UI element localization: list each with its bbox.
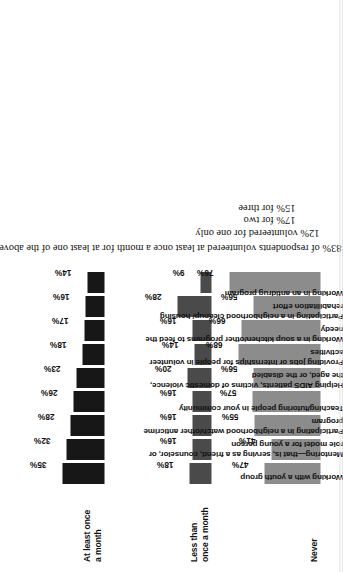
footnote-one-only: 12% volunteered for one only <box>195 228 341 239</box>
category-label: Providing jobs or internships for people… <box>138 348 343 367</box>
footnote-two: 17% for two <box>243 215 341 226</box>
bar-value-label: 23% <box>44 364 61 374</box>
group-header-never: Never <box>308 488 319 562</box>
rotated-figure-stage: At least once a month 35% 32% 28% <box>0 0 343 572</box>
category-label: Helping AIDS patients, victims of domest… <box>138 371 343 390</box>
footnote-summary: 83% of respondents volunteered at least … <box>0 243 341 254</box>
category-label: Participating in a neighborhood cleanup/… <box>138 302 343 321</box>
bar-group-at-least-once-a-month: At least once a month 35% 32% 28% <box>8 272 104 562</box>
bar-slot: 16% <box>8 296 104 317</box>
category-label: Participating in a neighborhood watch/ot… <box>138 417 343 436</box>
bar <box>73 391 104 412</box>
bar-value-label: 26% <box>40 388 57 398</box>
bars-at-least-once-a-month: 35% 32% 28% 26% <box>8 272 104 484</box>
page: At least once a month 35% 32% 28% <box>0 0 343 572</box>
bar-slot: 18% <box>8 344 104 365</box>
group-header-line-1: Never <box>308 488 319 562</box>
bar-value-label: 14% <box>55 268 72 278</box>
bar-value-label: 28% <box>38 412 55 422</box>
page-edge-line-secondary <box>339 0 340 572</box>
group-header-less-than-once-a-month: Less than once a month <box>188 488 209 562</box>
group-header-line-1: At least once <box>81 488 92 562</box>
bar-value-label: 47% <box>231 460 248 470</box>
footnote-three: 15% for three <box>238 203 341 214</box>
bar <box>84 320 104 341</box>
category-label: Teaching/tutoring people in your communi… <box>138 403 343 413</box>
group-header-at-least-once-a-month: At least once a month <box>81 488 102 562</box>
bar-value-label: 9% <box>172 268 184 278</box>
bar-slot: 23% <box>8 368 104 389</box>
category-label: Working with a youth group <box>138 472 343 482</box>
bar <box>66 439 104 460</box>
bar <box>87 272 104 293</box>
category-label: Working in a soup kitchen/other programs… <box>138 325 343 344</box>
bar-slot: 17% <box>8 320 104 341</box>
bar <box>82 344 104 365</box>
bar-value-label: 35% <box>29 460 46 470</box>
bar-slot: 32% <box>8 439 104 460</box>
bar-value-label: 16% <box>52 292 69 302</box>
group-header-line-2: once a month <box>199 488 210 562</box>
bar-slot: 14% <box>8 272 104 293</box>
bar-value-label: 17% <box>51 316 68 326</box>
bar-value-label: 18% <box>157 460 174 470</box>
bar-value-label: 18% <box>50 340 67 350</box>
category-label: Mentoring—that is, serving as a friend, … <box>138 440 343 459</box>
bar <box>62 463 104 484</box>
group-header-line-2: a month <box>92 488 103 562</box>
category-label: Working in an antidrug program <box>138 288 343 298</box>
bar-value-label: 76% <box>196 268 213 278</box>
group-header-line-1: Less than <box>188 488 199 562</box>
bar-value-label: 32% <box>33 436 50 446</box>
bar-slot: 28% <box>8 415 104 436</box>
bar-slot: 35% <box>8 463 104 484</box>
bar-slot: 26% <box>8 391 104 412</box>
bar <box>85 296 104 317</box>
bar <box>76 368 104 389</box>
bar <box>70 415 104 436</box>
